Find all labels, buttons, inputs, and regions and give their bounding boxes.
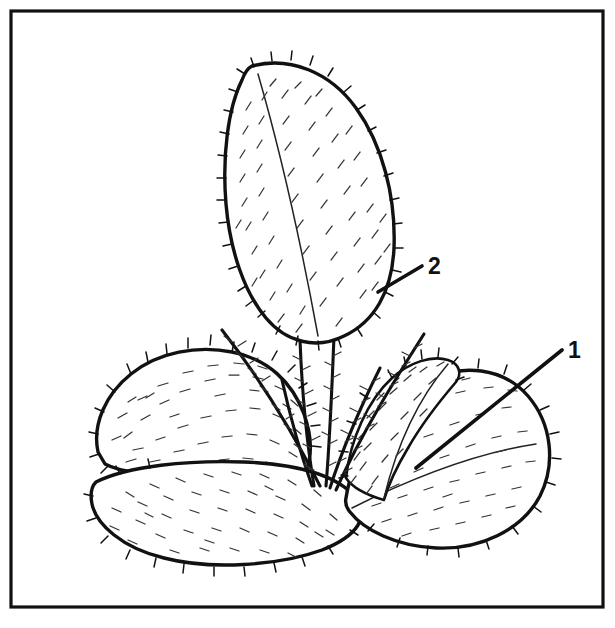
botanical-illustration-canvas: 2 1 (0, 0, 615, 628)
botanical-figure: 2 1 (0, 0, 615, 628)
callout-1-label: 1 (568, 337, 581, 363)
callout-2-label: 2 (428, 253, 441, 279)
